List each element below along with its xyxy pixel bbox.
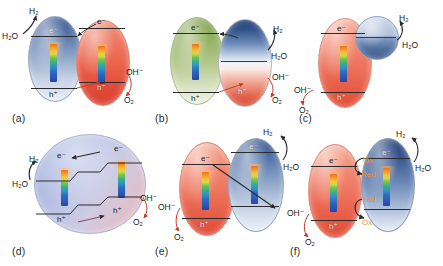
panel-a-spectrum-right (98, 46, 105, 84)
panel-e-o2-label: O₂ (174, 233, 184, 242)
panel-d-spectrum-left (61, 170, 68, 206)
panel-c-electron-label: e⁻ (337, 25, 346, 33)
panel-b-o2-label: O₂ (272, 96, 282, 105)
panel-a-blue-vb-level (31, 88, 77, 89)
panel-c-spectrum (340, 46, 347, 82)
panel-f-o2-label: O₂ (305, 238, 315, 247)
panel-a-oh-label: OH⁻ (126, 68, 143, 77)
panel-e-spectrum-right (251, 166, 258, 204)
panel-f-red-hole-label: h⁺ (329, 223, 338, 231)
panel-e-spectrum-left (202, 172, 209, 210)
panel-f-o2-arrow (304, 214, 309, 237)
panel-f-oh-label: OH⁻ (287, 209, 304, 218)
photocatalysis-figure: e⁻ h⁺ e⁻ h⁺ H₂ H₂O OH⁻ O₂ (a) e⁻ h⁺ h⁺ H… (0, 0, 443, 266)
panel-f-spectrum-right (383, 168, 390, 206)
panel-f-mediator-ox-lower: Ox (362, 219, 372, 227)
panel-b-gradient-hole-label: h⁺ (238, 88, 247, 96)
panel-d-caption: (d) (12, 245, 25, 257)
panel-e-red-vb-level (182, 218, 230, 219)
panel-d-o2-label: O₂ (133, 218, 143, 227)
panel-a-red-hole-label: h⁺ (97, 84, 106, 92)
panel-f-h2o-label: H₂O (415, 164, 431, 173)
panel-c-oh-label: OH⁻ (294, 86, 311, 95)
panel-f-red-electron-label: e⁻ (329, 157, 338, 165)
panel-b-oh-label: OH⁻ (272, 73, 289, 82)
panel-f-mediator-ox-upper: Ox (363, 157, 373, 165)
panel-a-spectrum-left (50, 44, 57, 82)
panel-a-caption: (a) (12, 112, 25, 124)
panel-a-blue-cb-level (31, 36, 77, 37)
panel-e-red-electron-label: e⁻ (201, 155, 210, 163)
panel-f-h2-label: H₂ (396, 130, 405, 139)
panel-f-red-vb-level (311, 220, 357, 221)
panel-b-green-hole-label: h⁺ (191, 95, 200, 103)
panel-f-spectrum-left (330, 174, 337, 212)
panel-f-red-cb-level (311, 166, 357, 167)
panel-c-hole-label: h⁺ (337, 94, 346, 102)
panel-b-spectrum (192, 44, 199, 80)
panel-a-red-electron-label: e⁻ (97, 18, 106, 26)
panel-e-h2o-label: H₂O (283, 163, 299, 172)
panel-e-h2-label: H₂ (263, 128, 272, 137)
panel-e-oh-label: OH⁻ (158, 203, 175, 212)
panel-c-blue-sphere (355, 16, 399, 60)
panel-b-green-vb-level (173, 92, 219, 93)
panel-f-blue-vb-level (364, 209, 410, 210)
panel-d-h2o-label: H₂O (12, 180, 28, 189)
panel-d-hole-label-left: h⁺ (57, 216, 66, 224)
panel-f-blue-electron-label: e⁻ (382, 149, 391, 157)
panel-e-o2-arrow (176, 208, 180, 231)
panel-d-electron-label-left: e⁻ (57, 152, 66, 160)
panel-c-caption: (c) (299, 112, 312, 124)
panel-f-h2-arrow (412, 138, 418, 162)
panel-f-mediator-red-lower: Red (361, 196, 376, 204)
panel-b-green-electron-label: e⁻ (191, 24, 200, 32)
panel-e-caption: (e) (155, 245, 168, 257)
panel-f-mediator-red-upper: Red (361, 171, 376, 179)
panel-c-red-cb-level (321, 33, 365, 34)
panel-a-h2-label: H₂ (29, 7, 38, 16)
panel-e-red-hole-label: h⁺ (200, 221, 209, 229)
panel-d-spectrum-right (118, 162, 125, 198)
panel-a-blue-hole-label: h⁺ (49, 91, 58, 99)
panel-b-caption: (b) (155, 112, 168, 124)
panel-d-oh-label: OH⁻ (140, 194, 157, 203)
panel-b-h2-label: H₂ (273, 25, 282, 34)
panel-e-h2-arrow (281, 136, 287, 160)
panel-c-sphere-level (356, 37, 396, 38)
panel-d-lavender-particle (34, 134, 146, 234)
panel-d-hole-label-right: h⁺ (113, 207, 122, 215)
panel-e-blue-cb-level (231, 152, 279, 153)
panel-b-gradient-mid-level (221, 61, 267, 62)
panel-a-h2o-label: H₂O (2, 32, 18, 41)
panel-e-blue-vb-level (231, 206, 279, 207)
panel-d-h2-label: H₂ (29, 155, 38, 164)
panel-c-h2-label: H₂ (399, 14, 408, 23)
panel-e-blue-electron-label: e⁻ (249, 143, 258, 151)
panel-a-red-cb-level (79, 28, 125, 29)
panel-a-blue-electron-label: e⁻ (49, 27, 58, 35)
panel-b-h2o-label: H₂O (271, 52, 287, 61)
panel-c-h2o-label: H₂O (402, 41, 418, 50)
panel-e-red-cb-level (182, 164, 230, 165)
panel-b-green-cb-level (173, 33, 219, 34)
panel-f-caption: (f) (290, 245, 301, 257)
panel-d-electron-label-right: e⁻ (114, 145, 123, 153)
panel-a-o2-label: O₂ (124, 96, 134, 105)
